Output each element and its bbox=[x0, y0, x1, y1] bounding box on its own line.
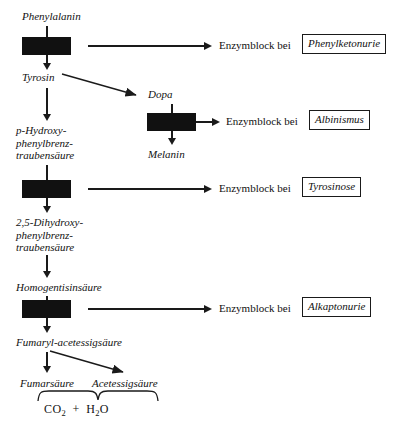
end-product-h2o: H2O bbox=[86, 402, 109, 416]
end-products-label: CO2 + H2O bbox=[44, 402, 109, 418]
enzyme-block-2-bar bbox=[147, 113, 196, 131]
arrowhead-callout-tyrosinose bbox=[204, 185, 212, 193]
metabolite-fumarsaeure: Fumarsäure bbox=[20, 377, 74, 390]
metabolite-acetessigsaeure: Acetessigsäure bbox=[92, 377, 158, 390]
enzyme-block-label-albinismus: Enzymblock bei bbox=[226, 115, 298, 127]
pathway-diagram: Phenylalanin Tyrosin p-Hydroxy- phenylbr… bbox=[0, 0, 398, 423]
enzyme-block-label-alkaptonurie: Enzymblock bei bbox=[219, 302, 291, 314]
end-products-operator: + bbox=[73, 402, 80, 416]
end-product-co2: CO2 bbox=[44, 402, 66, 416]
callout-line-alkaptonurie bbox=[88, 308, 206, 310]
arrowhead-callout-phenylketonurie bbox=[204, 42, 212, 50]
branch-arrow-fumaryl-to-acetessigsaeure bbox=[0, 0, 398, 423]
arrowhead-callout-alkaptonurie bbox=[204, 305, 212, 313]
disease-box-phenylketonurie: Phenylketonurie bbox=[302, 34, 386, 54]
disease-box-albinismus: Albinismus bbox=[309, 110, 370, 130]
metabolite-melanin: Melanin bbox=[148, 148, 185, 161]
enzyme-block-label-tyrosinose: Enzymblock bei bbox=[219, 182, 291, 194]
enzyme-block-label-phenylketonurie: Enzymblock bei bbox=[219, 39, 291, 51]
arrowhead-callout-albinismus bbox=[212, 118, 220, 126]
callout-line-phenylketonurie bbox=[88, 45, 206, 47]
disease-box-alkaptonurie: Alkaptonurie bbox=[302, 297, 371, 317]
disease-box-tyrosinose: Tyrosinose bbox=[302, 177, 361, 197]
callout-line-tyrosinose bbox=[88, 188, 206, 190]
arrowhead-to-melanin bbox=[168, 138, 176, 145]
metabolite-dopa: Dopa bbox=[148, 88, 172, 101]
